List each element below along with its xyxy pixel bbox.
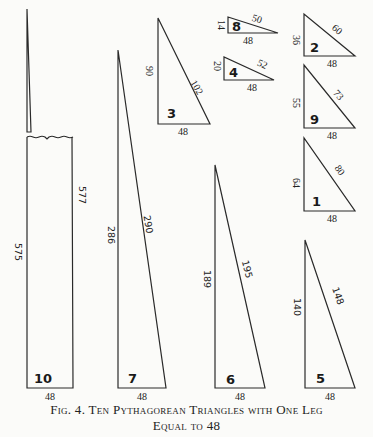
triangle-1-hypotenuse-label: 80 <box>332 163 347 178</box>
triangle-6-number: 6 <box>226 372 235 387</box>
triangle-10-leg-label: 575 <box>13 243 24 261</box>
triangle-5-hypotenuse-label: 148 <box>330 285 347 306</box>
triangle-5: 140 148 5 48 <box>292 240 355 402</box>
break-mark <box>27 136 73 139</box>
triangle-7-base-label: 48 <box>137 391 147 402</box>
triangle-10-body <box>27 137 73 388</box>
triangle-1-base-label: 48 <box>327 213 337 224</box>
pythagorean-triangles-diagram: 575 577 10 48 286 290 7 48 90 102 3 48 1… <box>0 0 373 437</box>
triangle-10-hypotenuse-label: 577 <box>77 186 88 204</box>
triangle-7-number: 7 <box>128 371 137 386</box>
triangle-2-leg-label: 36 <box>291 35 302 45</box>
triangle-9-number: 9 <box>310 112 319 127</box>
triangle-6-base-label: 48 <box>235 391 245 402</box>
triangle-8-number: 8 <box>232 19 241 34</box>
triangle-6: 189 195 6 48 <box>202 165 265 402</box>
triangle-4-number: 4 <box>229 65 238 80</box>
triangle-8: 14 50 8 48 <box>216 12 278 46</box>
triangle-10-top-fragment <box>27 9 31 132</box>
triangle-6-leg-label: 189 <box>202 270 213 288</box>
triangle-5-shape <box>305 240 355 388</box>
triangle-2-base-label: 48 <box>327 58 337 69</box>
triangle-2-hypotenuse-label: 60 <box>330 22 345 37</box>
triangle-8-base-label: 48 <box>243 35 253 46</box>
triangle-8-leg-label: 14 <box>216 20 227 30</box>
triangle-7: 286 290 7 48 <box>106 50 166 402</box>
triangle-4-hypotenuse-label: 52 <box>256 57 270 71</box>
triangle-4-leg-label: 20 <box>212 61 223 71</box>
triangle-1-number: 1 <box>312 194 321 209</box>
figure-caption-line-2: Equal to 48 <box>0 418 373 434</box>
triangle-4: 20 52 4 48 <box>212 57 274 93</box>
triangle-2: 36 60 2 48 <box>291 14 355 69</box>
triangle-5-leg-label: 140 <box>292 298 303 316</box>
triangle-5-base-label: 48 <box>325 391 335 402</box>
triangle-6-shape <box>215 165 265 388</box>
triangle-1-leg-label: 64 <box>291 178 302 188</box>
triangle-7-leg-label: 286 <box>106 226 117 244</box>
triangle-4-base-label: 48 <box>247 82 257 93</box>
triangle-3-hypotenuse-label: 102 <box>189 78 206 96</box>
triangle-8-hypotenuse-label: 50 <box>251 12 264 26</box>
triangle-10-number: 10 <box>34 371 52 386</box>
triangle-3-shape <box>158 18 210 124</box>
triangle-3-number: 3 <box>167 106 176 121</box>
triangle-9-hypotenuse-label: 73 <box>331 87 346 102</box>
triangle-3-leg-label: 90 <box>144 66 155 76</box>
triangle-9-base-label: 48 <box>327 130 337 141</box>
triangle-3: 90 102 3 48 <box>144 18 210 137</box>
triangle-9: 55 73 9 48 <box>291 65 355 141</box>
triangle-9-leg-label: 55 <box>291 98 302 108</box>
figure-caption-line-1: Fig. 4. Ten Pythagorean Triangles with O… <box>0 402 373 418</box>
triangle-10: 575 577 10 48 <box>13 9 88 402</box>
triangle-2-number: 2 <box>310 40 319 55</box>
triangle-6-hypotenuse-label: 195 <box>240 259 255 279</box>
triangle-5-number: 5 <box>316 371 325 386</box>
triangle-10-base-label: 48 <box>45 391 55 402</box>
triangle-3-base-label: 48 <box>178 126 188 137</box>
triangle-1: 64 80 1 48 <box>291 138 355 224</box>
